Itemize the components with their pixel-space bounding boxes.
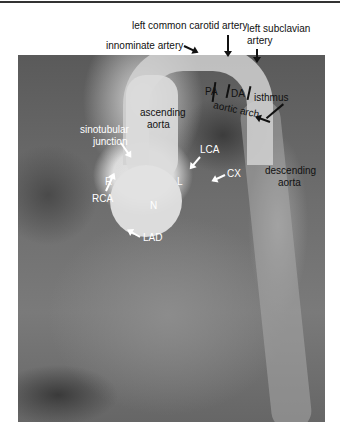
arrow-innominate-icon [184, 45, 198, 53]
label-left-subclavian-2: artery [247, 35, 273, 46]
label-l: L [177, 176, 183, 187]
arrow-subclavian-icon [256, 49, 258, 61]
label-descending-2: aorta [278, 177, 301, 188]
label-ascending-1: ascending [140, 107, 186, 118]
label-left-subclavian-1: left subclavian [247, 23, 310, 34]
label-n: N [150, 200, 157, 211]
label-rca: RCA [92, 193, 113, 204]
label-innominate: innominate artery [106, 40, 183, 51]
arrow-carotid-icon [227, 35, 229, 55]
label-lad: LAD [143, 232, 162, 243]
label-lca: LCA [200, 144, 219, 155]
label-descending-1: descending [265, 165, 316, 176]
header-rule [0, 1, 340, 3]
label-sinotubular-1: sinotubular [80, 124, 129, 135]
label-da: DA [231, 88, 245, 99]
label-ascending-2: aorta [147, 119, 170, 130]
label-pa: PA [205, 86, 218, 97]
label-isthmus: isthmus [254, 92, 288, 103]
label-left-common-carotid: left common carotid artery [132, 20, 248, 31]
aortic-root-shape [110, 165, 182, 237]
label-cx: CX [227, 168, 241, 179]
